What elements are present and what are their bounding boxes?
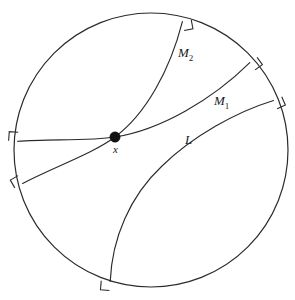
right-angle-L-bottom <box>100 281 109 291</box>
hyperbolic-geometry-diagram: x M2 M1 L <box>0 0 295 300</box>
point-x-dot <box>110 132 120 142</box>
label-m1-subscript: 1 <box>225 101 230 111</box>
label-l: L <box>184 132 192 147</box>
label-l-base: L <box>184 132 192 147</box>
label-m2-subscript: 2 <box>189 53 194 63</box>
boundary-circle <box>14 13 288 287</box>
point-x-label: x <box>112 143 118 155</box>
figure-root: x M2 M1 L <box>0 0 295 300</box>
